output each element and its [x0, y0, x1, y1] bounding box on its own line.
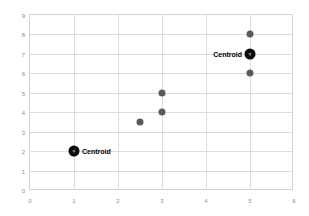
centroid-label-upper: Centroid	[213, 51, 242, 58]
y-tick-7: 7	[11, 52, 25, 58]
y-tick-1: 1	[11, 169, 25, 175]
y-tick-4: 4	[11, 110, 25, 116]
centroid-label-lower: Centroid	[82, 148, 111, 155]
y-tick-2: 2	[11, 149, 25, 155]
gridline-x-4	[206, 15, 207, 189]
centroid-marker-upper	[245, 49, 256, 60]
x-tick-4: 4	[198, 198, 214, 204]
data-point	[247, 31, 254, 38]
centroid-marker-lower	[69, 146, 80, 157]
x-tick-6: 6	[286, 198, 302, 204]
gridline-y-3	[30, 132, 292, 133]
data-point	[159, 109, 166, 116]
gridline-x-1	[74, 15, 75, 189]
gridline-y-1	[30, 171, 292, 172]
plot-area: Centroid Centroid	[29, 14, 293, 190]
y-tick-8: 8	[11, 32, 25, 38]
y-tick-3: 3	[11, 130, 25, 136]
x-tick-0: 0	[22, 198, 38, 204]
x-tick-5: 5	[242, 198, 258, 204]
y-tick-0: 0	[11, 188, 25, 194]
gridline-x-3	[162, 15, 163, 189]
data-point	[137, 119, 144, 126]
gridline-x-2	[118, 15, 119, 189]
y-tick-6: 6	[11, 71, 25, 77]
y-tick-5: 5	[11, 91, 25, 97]
data-point	[247, 70, 254, 77]
x-tick-1: 1	[66, 198, 82, 204]
x-tick-3: 3	[154, 198, 170, 204]
y-tick-9: 9	[11, 13, 25, 19]
x-tick-2: 2	[110, 198, 126, 204]
data-point	[159, 90, 166, 97]
scatter-chart: 9 8 7 6 5 4 3 2 1 0 0 1 2 3 4 5 6	[0, 0, 309, 216]
gridline-x-5	[250, 15, 251, 189]
